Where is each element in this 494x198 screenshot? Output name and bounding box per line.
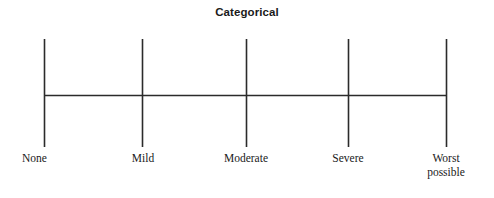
tick-label-severe: Severe (312, 152, 384, 166)
categorical-scale-figure: Categorical None Mild Moderate Severe Wo… (0, 0, 494, 198)
tick-label-worst-possible: Worst possible (406, 152, 486, 179)
tick-label-mild: Mild (112, 152, 174, 166)
tick-label-moderate: Moderate (206, 152, 286, 166)
tick-label-none: None (22, 152, 66, 166)
